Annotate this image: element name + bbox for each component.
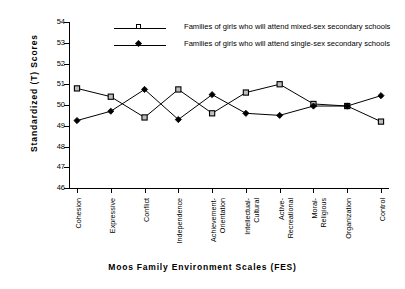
- y-tick-label: 52: [43, 60, 65, 68]
- x-tick-label-line: Intellectual-: [244, 198, 252, 270]
- open-square-marker-icon: [243, 90, 248, 95]
- x-tick: [111, 188, 112, 193]
- x-axis-title: Moos Family Environment Scales (FES): [0, 262, 405, 272]
- fes-line-chart: Standardized (T) Scores 4647484950515253…: [0, 0, 405, 289]
- filled-diamond-marker-icon: [277, 112, 283, 118]
- series-line: [77, 84, 381, 121]
- x-tick: [313, 188, 314, 193]
- open-square-marker-icon: [142, 115, 147, 120]
- x-tick-label-line: Expressive: [109, 198, 117, 270]
- legend-label: Families of girls who will attend single…: [184, 39, 390, 48]
- x-tick-label-line: Control: [379, 198, 387, 270]
- open-square-marker-icon: [176, 87, 181, 92]
- x-tick-label-line: Recreational: [287, 198, 295, 270]
- y-tick-label: 49: [43, 122, 65, 130]
- y-tick-label: 50: [43, 101, 65, 109]
- y-tick-label: 51: [43, 80, 65, 88]
- filled-diamond-marker-icon: [243, 110, 249, 116]
- x-tick-label-line: Cohesion: [75, 198, 83, 270]
- x-tick-label-line: Active-: [278, 198, 286, 270]
- y-tick-label: 53: [43, 39, 65, 47]
- y-tick-label: 46: [43, 184, 65, 192]
- y-tick-label: 54: [43, 18, 65, 26]
- y-tick-label: 48: [43, 143, 65, 151]
- legend-label: Families of girls who will attend mixed-…: [184, 22, 390, 31]
- open-square-marker-icon: [277, 82, 282, 87]
- x-tick-label-line: Religious: [320, 198, 328, 270]
- x-tick: [280, 188, 281, 193]
- x-axis-line: [69, 188, 389, 189]
- filled-diamond-marker-icon: [74, 117, 80, 123]
- y-tick-label: 47: [43, 163, 65, 171]
- x-tick-label-line: Conflict: [143, 198, 151, 270]
- x-tick: [246, 188, 247, 193]
- open-square-marker-icon: [108, 94, 113, 99]
- y-axis-title: Standardized (T) Scores: [29, 13, 39, 173]
- open-square-marker-icon: [136, 24, 141, 29]
- x-tick: [145, 188, 146, 193]
- open-square-marker-icon: [210, 111, 215, 116]
- open-square-marker-icon: [378, 119, 383, 124]
- x-tick: [381, 188, 382, 193]
- filled-diamond-marker-icon: [136, 41, 141, 46]
- x-tick-label-line: Organization: [345, 198, 353, 270]
- x-tick-label-line: Cultural: [253, 198, 261, 270]
- x-tick-label-line: Orientation: [219, 198, 227, 270]
- filled-diamond-marker-icon: [378, 93, 384, 99]
- x-tick: [212, 188, 213, 193]
- x-tick: [77, 188, 78, 193]
- x-tick-label-line: Independence: [176, 198, 184, 270]
- filled-diamond-marker-icon: [108, 108, 114, 114]
- x-tick: [347, 188, 348, 193]
- x-tick: [178, 188, 179, 193]
- open-square-marker-icon: [74, 86, 79, 91]
